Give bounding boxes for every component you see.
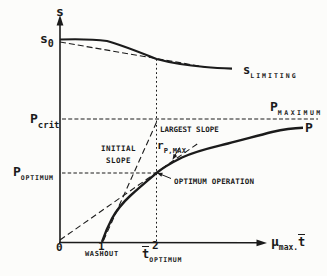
s-limiting-label: sLIMITING [243,61,298,77]
optimum-operation-label: OPTIMUM OPERATION [174,178,254,186]
s0-sub: 0 [48,39,54,49]
t-optimum-label: tOPTIMUM [142,245,182,261]
s-curve [60,39,232,68]
p-crit-main: P [30,112,38,125]
chemostat-productivity-figure: s s0 sLIMITING Pcrit PMAXIMUM P POPTIMUM… [0,0,327,276]
rpmax-label: rP,MAX [157,136,186,152]
p-maximum-label: PMAXIMUM [270,98,323,114]
x-tick-0: 0 [56,242,63,253]
s-limiting-sub: LIMITING [250,73,297,80]
y-axis-label: s [56,5,64,18]
p-crit-label: Pcrit [30,110,60,126]
p-optimum-label: POPTIMUM [13,163,54,179]
s0-main: s [40,32,48,45]
p-maximum-sub: MAXIMUM [278,110,323,117]
x-axis-label: μmax.t [271,233,305,249]
s-chord-dashed-line [60,42,205,67]
t-optimum-sub: OPTIMUM [149,257,182,264]
optimum-operation-arrowhead-icon [157,173,163,177]
p-optimum-sub: OPTIMUM [21,175,54,182]
rpmax-sub: P,MAX [164,148,187,155]
largest-slope-label: LARGEST SLOPE [160,126,219,134]
rpmax-main: r [157,140,164,151]
x-axis-mu: μ [271,235,279,248]
initial-slope-label-line2: SLOPE [106,157,131,165]
washout-label: WASHOUT [85,251,119,258]
s-limiting-main: s [243,64,250,76]
p-curve-label: P [305,121,313,134]
x-axis-sub: max. [279,244,298,252]
s0-label: s0 [40,30,54,46]
p-optimum-main: P [13,165,21,178]
x-axis-t: t [298,234,305,248]
p-maximum-main: P [270,100,278,113]
p-crit-sub: crit [38,121,60,130]
t-optimum-main: t [142,246,149,260]
initial-slope-label-line1: INITIAL [101,145,136,153]
x-axis-arrowhead-icon [257,240,268,247]
